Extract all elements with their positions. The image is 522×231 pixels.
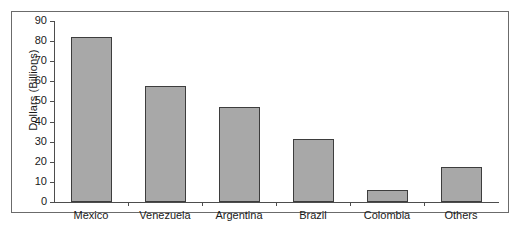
x-axis-label: Venezuela (128, 209, 202, 221)
y-tick-mark (50, 41, 54, 42)
y-tick-mark (50, 122, 54, 123)
y-tick-label: 40 (21, 115, 47, 127)
y-tick-label: 0 (21, 195, 47, 207)
x-tick-mark (350, 202, 351, 206)
bar (219, 107, 260, 202)
x-tick-mark (202, 202, 203, 206)
y-tick-mark (50, 21, 54, 22)
y-tick-mark (50, 182, 54, 183)
y-axis-tick: 20 (54, 162, 55, 163)
y-tick-label: 80 (21, 34, 47, 46)
y-tick-label: 70 (21, 54, 47, 66)
x-tick-mark (276, 202, 277, 206)
y-axis-tick: 90 (54, 21, 55, 22)
y-axis-tick: 30 (54, 142, 55, 143)
y-axis-tick: 10 (54, 182, 55, 183)
y-tick-mark (50, 101, 54, 102)
y-tick-mark (50, 162, 54, 163)
bar (145, 86, 186, 202)
y-tick-label: 60 (21, 74, 47, 86)
bar (293, 139, 334, 202)
bar (367, 190, 408, 202)
y-tick-label: 20 (21, 155, 47, 167)
y-axis-tick: 60 (54, 81, 55, 82)
y-axis-tick: 80 (54, 41, 55, 42)
chart-frame: Dollars (Billions) 0102030405060708090 M… (11, 11, 509, 213)
y-axis-tick: 40 (54, 122, 55, 123)
x-tick-mark (128, 202, 129, 206)
y-tick-mark (50, 61, 54, 62)
y-tick-label: 30 (21, 135, 47, 147)
y-tick-label: 50 (21, 94, 47, 106)
y-axis-tick: 0 (54, 202, 55, 203)
bar (71, 37, 112, 202)
x-axis-label: Mexico (54, 209, 128, 221)
x-axis-label: Colombia (350, 209, 424, 221)
y-tick-mark (50, 81, 54, 82)
bar (441, 167, 482, 202)
x-axis-label: Brazil (276, 209, 350, 221)
y-tick-mark (50, 202, 54, 203)
y-tick-label: 10 (21, 175, 47, 187)
x-axis-label: Argentina (202, 209, 276, 221)
y-tick-label: 90 (21, 14, 47, 26)
y-axis-tick: 70 (54, 61, 55, 62)
plot-area: 0102030405060708090 MexicoVenezuelaArgen… (54, 21, 498, 202)
y-axis-line (54, 21, 55, 202)
y-axis-tick: 50 (54, 101, 55, 102)
y-tick-mark (50, 142, 54, 143)
x-axis-label: Others (424, 209, 498, 221)
x-tick-mark (424, 202, 425, 206)
